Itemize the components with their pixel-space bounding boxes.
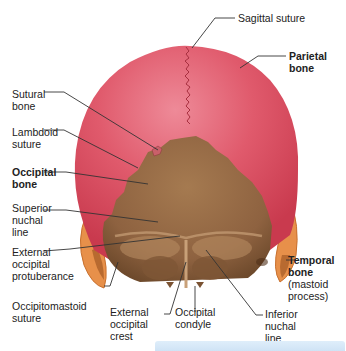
label-sutural-bone: Sutural bone (12, 88, 45, 112)
label-parietal-bone: Parietal bone (289, 50, 346, 74)
label-temporal-bone-sub: (mastoid process) (288, 278, 328, 302)
label-lambdoid-suture: Lambdoid suture (12, 126, 58, 150)
occipital-condyle-right (196, 282, 204, 288)
occipital-condyle-left (166, 282, 174, 288)
label-temporal-bone: Temporal bone (288, 254, 334, 278)
label-occipital-bone: Occipital bone (12, 166, 56, 190)
label-superior-nuchal-line: Superior nuchal line (12, 202, 52, 238)
label-sagittal-suture: Sagittal suture (238, 12, 305, 24)
label-inferior-nuchal-line: Inferior nuchal line (265, 308, 298, 344)
label-external-occipital-protuberance: External occipital protuberance (12, 246, 74, 282)
label-external-occipital-crest: External occipital crest (110, 306, 149, 342)
label-occipital-condyle: Occipital condyle (175, 306, 215, 330)
label-occipitomastoid-suture: Occipitomastoid suture (12, 300, 87, 324)
bottom-caption-bar (155, 341, 345, 351)
